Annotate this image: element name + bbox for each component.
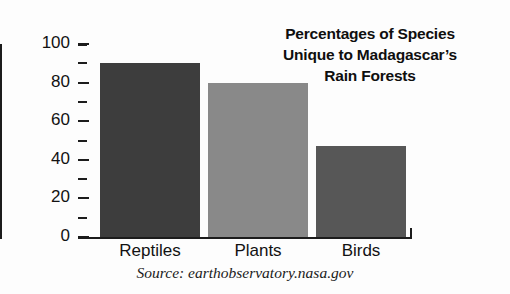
x-label-birds: Birds xyxy=(316,241,406,261)
y-axis-line xyxy=(0,44,2,239)
y-tick-label: 20 xyxy=(10,187,70,207)
y-tick-label: 0 xyxy=(10,226,70,246)
x-label-reptiles: Reptiles xyxy=(100,241,200,261)
plot-area xyxy=(78,44,412,237)
bar-chart-figure: Percentages of Species Unique to Madagas… xyxy=(0,0,510,294)
y-tick-label: 40 xyxy=(10,149,70,169)
bar-reptiles xyxy=(100,63,200,237)
chart-title-line-1: Percentages of Species xyxy=(236,23,504,44)
x-label-plants: Plants xyxy=(208,241,308,261)
y-tick-label: 100 xyxy=(10,33,70,53)
y-tick-label: 60 xyxy=(10,110,70,130)
x-axis-line xyxy=(78,237,412,239)
bar-birds xyxy=(316,146,406,237)
source-caption: Source: earthobservatory.nasa.gov xyxy=(78,264,412,282)
y-tick-label: 80 xyxy=(10,72,70,92)
bar-plants xyxy=(208,83,308,237)
